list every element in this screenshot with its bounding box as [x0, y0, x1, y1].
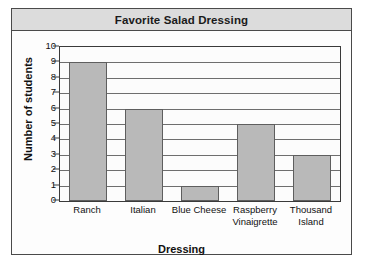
x-axis-title: Dressing	[12, 243, 351, 255]
chart-title-band: Favorite Salad Dressing	[12, 9, 351, 31]
bar	[69, 62, 107, 201]
bar	[125, 109, 163, 201]
x-axis-tick-label-line: Blue Cheese	[171, 204, 227, 216]
x-axis-tick-label: Blue Cheese	[171, 204, 227, 216]
x-axis-tick-label-line: Italian	[115, 204, 171, 216]
plot-area	[59, 46, 341, 202]
x-axis-tick-label: Italian	[115, 204, 171, 216]
bar	[237, 124, 275, 201]
chart-region: Number of students 012345678910 RanchIta…	[12, 31, 351, 254]
x-axis-tick-labels: RanchItalianBlue CheeseRaspberryVinaigre…	[59, 204, 341, 240]
x-axis-tick-label-line: Island	[283, 216, 339, 228]
x-axis-tick-label-line: Vinaigrette	[227, 216, 283, 228]
x-axis-tick-label: RaspberryVinaigrette	[227, 204, 283, 227]
bar	[181, 186, 219, 201]
chart-title: Favorite Salad Dressing	[115, 14, 248, 26]
bar	[293, 155, 331, 201]
x-axis-tick-label: Ranch	[59, 204, 115, 216]
x-axis-tick-label-line: Thousand	[283, 204, 339, 216]
y-axis-title: Number of students	[22, 49, 34, 169]
x-axis-tick-label-line: Ranch	[59, 204, 115, 216]
x-axis-tick-label: ThousandIsland	[283, 204, 339, 227]
figure-frame: Favorite Salad Dressing Number of studen…	[11, 8, 352, 255]
x-axis-tick-label-line: Raspberry	[227, 204, 283, 216]
